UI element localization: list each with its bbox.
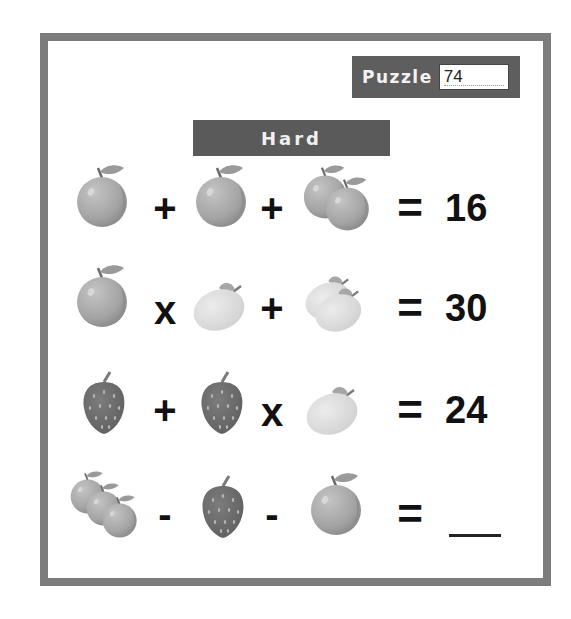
- puzzle-number-field[interactable]: 74: [439, 64, 509, 90]
- strawberry-icon: [78, 370, 130, 434]
- orange-pair-icon: [303, 164, 375, 234]
- answer-blank[interactable]: [449, 534, 501, 537]
- multiply-operator: x: [252, 382, 292, 442]
- result-value: 24: [445, 380, 515, 440]
- plus-operator: +: [145, 380, 185, 440]
- lemon-icon: [193, 276, 255, 332]
- orange-icon: [310, 472, 364, 536]
- puzzle-number-box: Puzzle 74: [352, 56, 520, 98]
- multiply-operator: x: [145, 280, 185, 340]
- lemon-icon: [306, 380, 368, 436]
- strawberry-icon: [196, 370, 248, 434]
- equation-row-1: + + = 16: [0, 158, 571, 258]
- difficulty-label: Hard: [261, 128, 322, 149]
- equation-row-4: - - =: [0, 466, 571, 566]
- puzzle-label: Puzzle: [362, 67, 433, 87]
- strawberry-icon: [197, 474, 249, 538]
- orange-icon: [76, 264, 130, 328]
- equals-sign: =: [390, 484, 430, 544]
- lemon-pair-icon: [305, 270, 377, 334]
- orange-icon: [195, 164, 249, 228]
- equation-row-3: + x = 24: [0, 362, 571, 462]
- result-value: 16: [445, 178, 515, 238]
- equals-sign: =: [390, 278, 430, 338]
- equals-sign: =: [390, 178, 430, 238]
- minus-operator: -: [145, 484, 185, 544]
- equals-sign: =: [390, 380, 430, 440]
- plus-operator: +: [252, 278, 292, 338]
- orange-icon: [76, 164, 130, 228]
- plus-operator: +: [252, 178, 292, 238]
- orange-triple-icon: [70, 470, 142, 542]
- difficulty-banner: Hard: [193, 120, 390, 156]
- equation-row-2: x + = 30: [0, 258, 571, 358]
- plus-operator: +: [145, 178, 185, 238]
- minus-operator: -: [252, 484, 292, 544]
- result-value: 30: [445, 278, 515, 338]
